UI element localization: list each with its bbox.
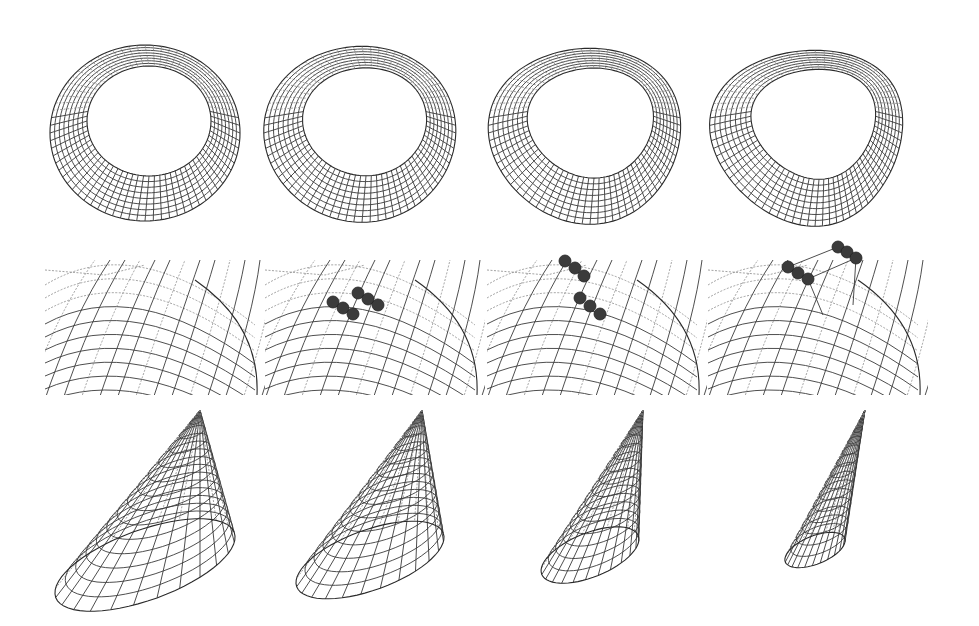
control-point-icon	[584, 300, 596, 312]
control-point-icon	[559, 255, 571, 267]
control-point-icon	[802, 273, 814, 285]
wireframe-deformation-figure	[0, 0, 979, 626]
control-point-icon	[594, 308, 606, 320]
surface-panel-3	[467, 255, 732, 468]
surface-panel-4	[688, 241, 953, 468]
cone-panel-1	[55, 410, 235, 611]
control-point-icon	[347, 308, 359, 320]
control-point-icon	[578, 270, 590, 282]
surface-panel-1	[25, 260, 290, 468]
control-point-icon	[372, 299, 384, 311]
cone-panel-4	[785, 410, 865, 568]
cone-panel-3	[541, 410, 643, 583]
figure-canvas	[0, 0, 979, 626]
cone-panel-2	[296, 410, 444, 599]
control-point-icon	[574, 292, 586, 304]
torus-panel-1	[50, 45, 240, 221]
torus-panel-3	[488, 48, 680, 224]
control-point-icon	[850, 252, 862, 264]
torus-panel-2	[264, 46, 456, 222]
torus-panel-4	[710, 50, 903, 226]
surface-panel-2	[245, 260, 510, 468]
